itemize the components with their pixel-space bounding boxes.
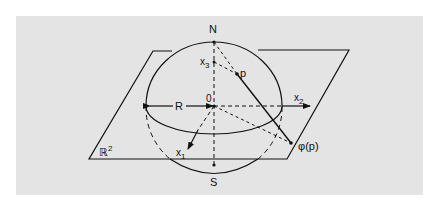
point-origin (212, 104, 215, 107)
point-x3 (213, 61, 216, 64)
label-south: S (210, 176, 217, 188)
label-north: N (209, 23, 217, 35)
sphere-lower-hidden-left (146, 106, 170, 159)
ray-n-to-p (214, 42, 237, 74)
label-x2: x2 (294, 92, 304, 106)
label-x3: x3 (200, 56, 210, 70)
x3-to-p (214, 62, 237, 74)
point-phi-p (289, 141, 293, 145)
origin-to-phi (214, 106, 291, 143)
label-radius: R (175, 100, 183, 112)
label-plane-r2: ℝ2 (99, 144, 113, 158)
point-s (212, 163, 215, 166)
label-origin: 0 (206, 93, 212, 104)
x1-axis-inner (198, 106, 214, 130)
label-p: p (240, 67, 246, 79)
stereographic-projection-diagram: N S 0 R p φ(p) x3 x2 x1 ℝ2 (0, 0, 437, 204)
point-p (235, 72, 239, 76)
label-phi-p: φ(p) (298, 140, 319, 152)
point-n (212, 40, 215, 43)
ray-p-to-phi (237, 74, 291, 143)
